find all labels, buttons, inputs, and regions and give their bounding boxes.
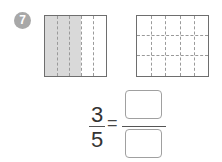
fraction-numerator: 3 [90,102,104,128]
problem-number-badge: 7 [14,12,31,29]
grid-divider [93,16,94,76]
grid-divider [165,16,166,76]
grid-divider [194,16,195,76]
answer-denominator-box[interactable] [125,129,162,158]
right-fraction-grid [136,15,209,77]
grid-divider [137,55,208,56]
grid-divider [81,16,82,76]
fraction-denominator: 5 [90,127,104,153]
grid-divider [180,16,181,76]
grid-divider [57,16,58,76]
grid-divider [137,35,208,36]
answer-fraction-bar [122,126,166,127]
grid-divider [69,16,70,76]
grid-divider [151,16,152,76]
answer-numerator-box[interactable] [125,90,162,119]
left-fraction-grid [44,15,107,77]
shaded-region [45,16,81,76]
equals-sign: = [107,113,118,134]
